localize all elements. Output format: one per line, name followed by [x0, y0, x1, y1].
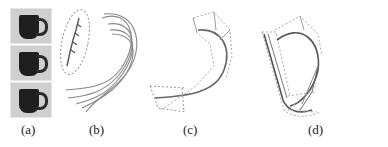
panel-a-caption: (a) [21, 122, 35, 138]
panel-d-caption: (d) [308, 122, 323, 138]
panel-c-drawing [150, 12, 232, 112]
panel-c-caption: (c) [183, 122, 197, 138]
panel-b-drawing [55, 7, 136, 112]
panel-b-caption: (b) [89, 122, 104, 138]
panel-d-drawing [262, 16, 322, 116]
